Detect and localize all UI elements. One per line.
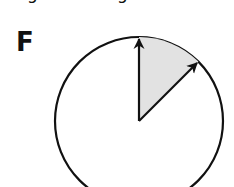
circle-diagram [0,0,234,187]
